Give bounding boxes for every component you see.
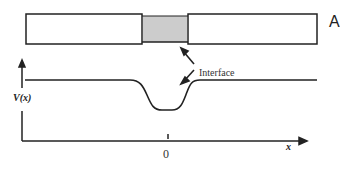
diagram-canvas	[0, 0, 340, 183]
x-axis	[22, 134, 307, 145]
interface-region	[143, 16, 187, 42]
left-material-block	[26, 14, 142, 44]
interface-label: Interface	[199, 67, 235, 78]
potential-curve	[25, 80, 317, 110]
interface-arrows	[181, 48, 194, 84]
x-axis-label: x	[286, 141, 291, 152]
y-axis-label: V(x)	[13, 92, 31, 103]
origin-tick-label: 0	[163, 147, 169, 162]
right-material-block	[188, 14, 317, 44]
panel-label: A	[329, 13, 340, 31]
